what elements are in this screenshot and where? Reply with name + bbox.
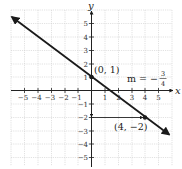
x-tick-label: −5 [18,94,28,102]
x-tick-label: −3 [45,94,55,102]
point-4-neg2 [143,115,147,119]
y-tick-label: 4 [84,34,89,42]
x-tick-label: 4 [143,94,148,102]
y-tick-label: −2 [78,114,88,122]
y-tick-label: 2 [84,61,88,69]
y-tick-label: −4 [78,141,89,149]
x-tick-label: 1 [103,94,107,102]
x-tick-labels: −5 −4 −3 −2 −1 1 2 3 4 5 [18,94,161,102]
x-tick-label: −4 [31,94,42,102]
y-axis-label: y [87,0,94,11]
x-tick-label: 5 [156,94,160,102]
slope-label: m = − [127,73,158,84]
point-0-1 [89,75,93,79]
x-tick-label: 3 [130,94,134,102]
x-axis-label: x [175,85,181,96]
x-tick-label: −2 [58,94,68,102]
slope-denominator: 4 [161,80,165,88]
y-tick-label: 1 [84,74,88,82]
point-label-0-1: (0, 1) [94,64,120,75]
y-tick-label: −3 [78,128,88,136]
y-tick-label: 5 [84,20,88,28]
y-tick-label: −5 [78,154,88,162]
point-label-4-neg2: (4, −2) [114,121,148,132]
coordinate-graph: x y −5 −4 −3 −2 −1 1 2 3 4 5 [0,0,182,169]
slope-annotation: m = − 3 4 [127,70,167,88]
y-tick-label: −1 [78,101,88,109]
slope-numerator: 3 [161,70,165,78]
y-tick-label: 3 [84,47,88,55]
